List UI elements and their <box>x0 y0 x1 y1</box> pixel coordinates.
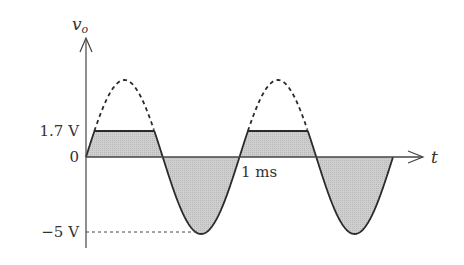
y-axis-label: vo <box>72 14 89 36</box>
x-axis-label: t <box>431 147 438 167</box>
time-marker-label: 1 ms <box>241 163 277 181</box>
zero-label: 0 <box>69 148 79 166</box>
clip-level-label: 1.7 V <box>40 122 81 140</box>
waveform-diagram: vo t 1.7 V 0 −5 V 1 ms <box>0 0 464 265</box>
shaded-area <box>86 131 393 234</box>
negative-peak-label: −5 V <box>41 223 80 241</box>
unclipped-peak-dashed <box>94 80 307 131</box>
